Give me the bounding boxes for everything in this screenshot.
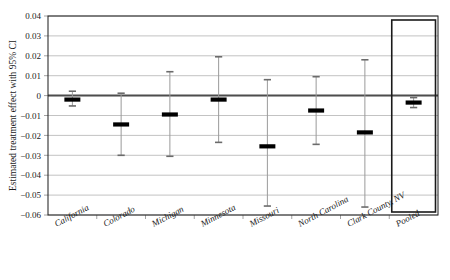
y-tick-label: −0.03 [20,151,41,161]
y-tick-label: −0.06 [20,210,41,220]
y-tick-label: 0 [37,91,42,101]
y-tick-label: 0.03 [25,31,41,41]
y-tick-label: 0.04 [25,11,41,21]
y-tick-label: 0.01 [25,71,41,81]
y-axis-title-text: Estimated treatment effect with 95% CI [8,40,18,191]
y-tick-label: −0.01 [20,111,41,121]
plot-background [0,0,450,280]
y-tick-label: −0.04 [20,170,41,180]
forest-plot-figure: 0.040.030.020.010−0.01−0.02−0.03−0.04−0.… [0,0,450,280]
y-tick-label: −0.05 [20,190,41,200]
y-axis-title: Estimated treatment effect with 95% CI [8,40,18,191]
chart-canvas: 0.040.030.020.010−0.01−0.02−0.03−0.04−0.… [0,0,450,280]
y-tick-label: −0.02 [20,131,41,141]
y-tick-label: 0.02 [25,51,41,61]
